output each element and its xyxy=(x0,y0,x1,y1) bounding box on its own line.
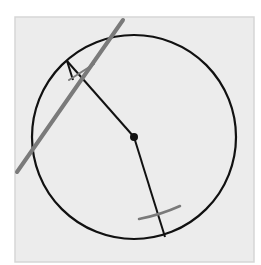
construction-diagram xyxy=(0,0,261,265)
center-point xyxy=(130,133,138,141)
diagram-svg xyxy=(0,0,261,265)
